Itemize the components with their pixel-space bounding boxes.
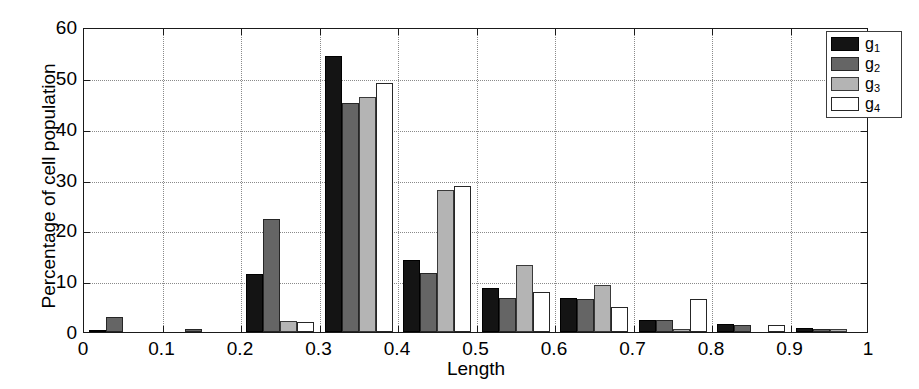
x-axis-tick [477, 326, 478, 332]
y-tick-label: 60 [3, 17, 77, 39]
bar-g3-bin-5 [516, 265, 533, 332]
bar-g4-bin-3 [376, 83, 393, 332]
y-tick-label: 40 [3, 119, 77, 141]
y-axis-tick [861, 182, 867, 183]
y-axis-tick [84, 232, 90, 233]
gridline-horizontal [84, 131, 867, 132]
bar-g1-bin-0 [89, 330, 106, 332]
gridline-vertical [634, 29, 635, 332]
x-axis-tick [712, 326, 713, 332]
bar-g2-bin-4 [420, 273, 437, 332]
bar-g4-bin-2 [297, 322, 314, 332]
x-tick-label: 0.1 [127, 338, 197, 360]
gridline-horizontal [84, 182, 867, 183]
gridline-vertical [791, 29, 792, 332]
x-axis-tick [555, 326, 556, 332]
x-tick-label: 0.5 [441, 338, 511, 360]
legend-swatch-g3 [831, 77, 859, 91]
bar-g2-bin-8 [734, 325, 751, 332]
gridline-vertical [398, 29, 399, 332]
bar-g4-bin-6 [611, 307, 628, 332]
y-axis-tick [84, 80, 90, 81]
chart-figure: Percentage of cell population 0102030405… [0, 0, 919, 389]
x-axis-tick [163, 29, 164, 35]
x-axis-tick [477, 29, 478, 35]
gridline-vertical [555, 29, 556, 332]
legend-label-g2: g2 [865, 55, 880, 74]
x-axis-tick [320, 326, 321, 332]
bar-g3-bin-7 [673, 329, 690, 332]
legend-swatch-g1 [831, 37, 859, 51]
legend-label-g4: g4 [865, 95, 880, 114]
legend-label-g1: g1 [865, 35, 880, 54]
x-tick-label: 0.9 [755, 338, 825, 360]
gridline-vertical [163, 29, 164, 332]
bar-g4-bin-7 [690, 299, 707, 332]
plot-area [83, 28, 868, 333]
legend-swatch-g2 [831, 57, 859, 71]
bar-g1-bin-5 [482, 288, 499, 332]
x-axis-tick [555, 29, 556, 35]
gridline-horizontal [84, 232, 867, 233]
x-axis-tick [241, 29, 242, 35]
legend-item-g2: g2 [831, 56, 899, 73]
y-axis-tick [84, 131, 90, 132]
gridline-vertical [712, 29, 713, 332]
x-tick-label: 0.6 [519, 338, 589, 360]
bar-g2-bin-1 [185, 329, 202, 332]
gridline-horizontal [84, 283, 867, 284]
x-tick-label: 0 [48, 338, 118, 360]
x-tick-label: 0.3 [284, 338, 354, 360]
x-axis-tick [712, 29, 713, 35]
bar-g3-bin-9 [830, 329, 847, 332]
bar-g1-bin-2 [246, 274, 263, 332]
bar-g2-bin-6 [577, 299, 594, 332]
bar-g1-bin-8 [717, 324, 734, 332]
gridline-vertical [477, 29, 478, 332]
y-tick-label: 30 [3, 170, 77, 192]
bar-g4-bin-4 [454, 186, 471, 332]
y-tick-label: 10 [3, 271, 77, 293]
bar-g1-bin-4 [403, 260, 420, 332]
y-tick-label: 20 [3, 220, 77, 242]
x-axis-tick [791, 326, 792, 332]
y-axis-tick [84, 182, 90, 183]
x-axis-tick [634, 29, 635, 35]
x-tick-label: 0.4 [362, 338, 432, 360]
gridline-vertical [320, 29, 321, 332]
bar-g2-bin-0 [106, 317, 123, 332]
legend-item-g3: g3 [831, 76, 899, 93]
bar-g3-bin-3 [359, 97, 376, 332]
x-axis-tick [163, 326, 164, 332]
chart-legend: g1g2g3g4 [826, 31, 902, 118]
x-tick-label: 0.7 [598, 338, 668, 360]
bar-g3-bin-2 [280, 321, 297, 332]
x-axis-tick [398, 326, 399, 332]
gridline-vertical [241, 29, 242, 332]
bar-g1-bin-6 [560, 298, 577, 332]
gridline-horizontal [84, 80, 867, 81]
x-tick-label: 0.8 [676, 338, 746, 360]
x-tick-label: 0.2 [205, 338, 275, 360]
y-axis-tick [861, 283, 867, 284]
bar-g1-bin-7 [639, 320, 656, 332]
y-axis-tick [861, 232, 867, 233]
x-axis-tick [241, 326, 242, 332]
bar-g4-bin-5 [533, 292, 550, 332]
bar-g1-bin-3 [325, 56, 342, 332]
y-tick-label: 50 [3, 68, 77, 90]
x-axis-tick [791, 29, 792, 35]
bar-g2-bin-7 [656, 320, 673, 332]
bar-g1-bin-9 [796, 328, 813, 332]
bar-g2-bin-3 [342, 103, 359, 332]
x-tick-label: 1 [833, 338, 903, 360]
legend-item-g4: g4 [831, 96, 899, 113]
x-axis-tick [320, 29, 321, 35]
x-axis-label: Length [83, 358, 869, 380]
legend-swatch-g4 [831, 97, 859, 111]
x-axis-tick [398, 29, 399, 35]
bar-g2-bin-5 [499, 298, 516, 332]
legend-item-g1: g1 [831, 36, 899, 53]
bar-g3-bin-6 [594, 285, 611, 332]
bar-g2-bin-9 [813, 329, 830, 332]
